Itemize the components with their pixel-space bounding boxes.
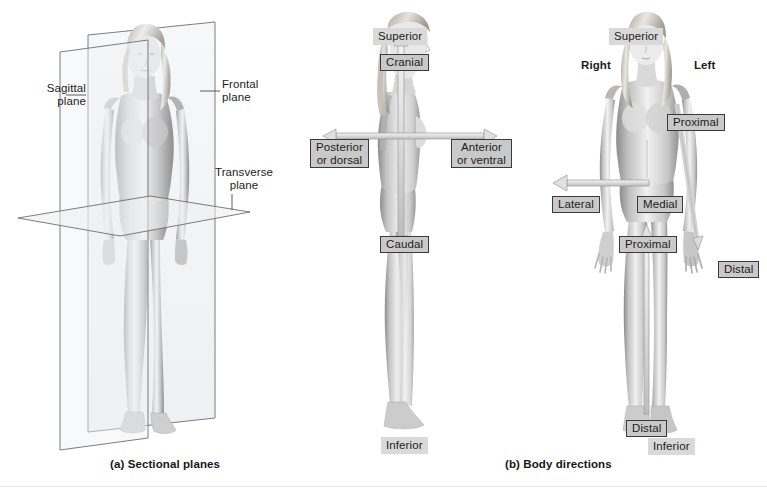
bottom-divider	[0, 486, 767, 487]
anatomy-figure: Sagittal plane Frontal plane Transverse …	[0, 0, 767, 488]
label-sagittal-plane: Sagittal plane	[28, 82, 86, 107]
label-lateral: Lateral	[552, 196, 600, 213]
label-superior-anterior: Superior	[609, 28, 663, 45]
label-distal-arm: Distal	[718, 261, 759, 278]
anterior-line2: or ventral	[457, 154, 506, 166]
sagittal-line2: plane	[57, 95, 86, 107]
transverse-line1: Transverse	[215, 166, 273, 178]
transverse-line2: plane	[230, 179, 259, 191]
posterior-line1: Posterior	[316, 141, 363, 153]
label-inferior-anterior: Inferior	[648, 438, 695, 455]
posterior-line2: or dorsal	[317, 154, 363, 166]
label-right: Right	[581, 59, 611, 72]
label-anterior-or-ventral: Anterior or ventral	[451, 139, 512, 168]
label-transverse-plane: Transverse plane	[204, 166, 284, 191]
anterior-line1: Anterior	[461, 141, 502, 153]
label-medial: Medial	[637, 196, 683, 213]
caption-body-directions: (b) Body directions	[505, 458, 612, 470]
panel-sectional-planes: Sagittal plane Frontal plane Transverse …	[0, 0, 290, 452]
label-proximal-arm: Proximal	[667, 114, 725, 131]
label-posterior-or-dorsal: Posterior or dorsal	[310, 139, 369, 168]
sectional-planes-illustration	[0, 0, 290, 452]
label-distal-leg: Distal	[626, 420, 667, 437]
label-superior: Superior	[373, 28, 427, 45]
panel-body-directions-anterior: Superior Right Left Proximal Lateral Med…	[525, 0, 767, 452]
anterior-figure-illustration	[525, 0, 767, 452]
label-cranial: Cranial	[380, 54, 429, 71]
frontal-line2: plane	[222, 91, 251, 103]
panel-body-directions-lateral: Superior Cranial Posterior or dorsal Ant…	[290, 0, 525, 452]
label-inferior-lateral: Inferior	[381, 437, 428, 454]
sagittal-line1: Sagittal	[47, 82, 86, 94]
label-frontal-plane: Frontal plane	[222, 78, 284, 103]
left-hand	[595, 231, 614, 273]
frontal-line1: Frontal	[222, 78, 259, 90]
caption-sectional-planes: (a) Sectional planes	[110, 458, 220, 470]
label-left: Left	[694, 59, 715, 72]
label-caudal: Caudal	[380, 236, 429, 253]
label-proximal-leg: Proximal	[619, 236, 677, 253]
